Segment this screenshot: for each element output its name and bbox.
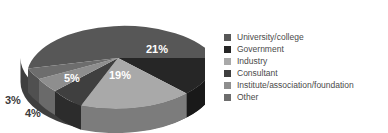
legend-item-university[interactable]: University/college <box>224 31 388 43</box>
legend-item-label: Industry <box>237 57 267 66</box>
legend-swatch-icon <box>224 94 231 101</box>
pie-svg <box>0 0 205 133</box>
legend-item-label: Other <box>237 93 258 102</box>
legend-item-industry[interactable]: Industry <box>224 55 388 67</box>
legend-item-institute[interactable]: Institute/association/foundation <box>224 79 388 91</box>
pie-graphic: 48% 21% 19% 5% 4% 3% <box>0 0 205 133</box>
pie-chart: 48% 21% 19% 5% 4% 3% University/college … <box>0 0 388 133</box>
legend-item-consultant[interactable]: Consultant <box>224 67 388 79</box>
legend-swatch-icon <box>224 58 231 65</box>
legend-swatch-icon <box>224 70 231 77</box>
legend-swatch-icon <box>224 46 231 53</box>
legend-item-label: Institute/association/foundation <box>237 81 354 90</box>
legend: University/college Government Industry C… <box>224 31 388 104</box>
legend-swatch-icon <box>224 34 231 41</box>
legend-item-label: University/college <box>237 33 304 42</box>
legend-item-government[interactable]: Government <box>224 43 388 55</box>
legend-item-label: Government <box>237 45 284 54</box>
legend-item-other[interactable]: Other <box>224 91 388 103</box>
legend-swatch-icon <box>224 82 231 89</box>
legend-item-label: Consultant <box>237 69 278 78</box>
